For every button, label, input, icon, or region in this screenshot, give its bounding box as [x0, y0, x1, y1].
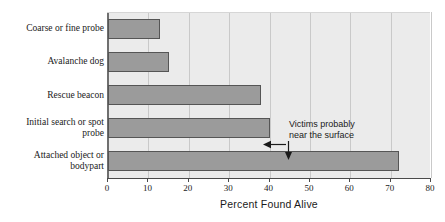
bar-row — [108, 145, 430, 178]
x-tick-mark — [349, 178, 350, 182]
category-label: Coarse or fine probe — [2, 23, 107, 34]
bar — [108, 19, 160, 39]
chart-figure: Coarse or fine probeAvalanche dogRescue … — [0, 0, 445, 222]
category-label-line: Initial search or spot — [2, 117, 104, 128]
x-tick-label: 50 — [294, 183, 324, 193]
x-tick-mark — [228, 178, 229, 182]
bar — [108, 151, 399, 171]
category-label: Avalanche dog — [2, 56, 107, 67]
bar — [108, 85, 261, 105]
bar-row — [108, 78, 430, 111]
category-label: Rescue beacon — [2, 90, 107, 101]
gridline-80 — [431, 12, 432, 178]
x-tick-label: 20 — [173, 183, 203, 193]
bar — [108, 118, 270, 138]
category-label: Initial search or spotprobe — [2, 117, 107, 139]
category-label-line: Coarse or fine probe — [2, 23, 104, 34]
category-label-line: Avalanche dog — [2, 56, 104, 67]
category-label-line: bodypart — [2, 161, 104, 172]
x-tick-mark — [188, 178, 189, 182]
annotation-line-1: Victims probably — [289, 119, 399, 130]
x-tick-label: 40 — [254, 183, 284, 193]
category-label-line: Attached object or — [2, 150, 104, 161]
category-axis-labels: Coarse or fine probeAvalanche dogRescue … — [0, 12, 107, 178]
annotation-label: Victims probably near the surface — [289, 119, 399, 140]
x-tick-label: 60 — [334, 183, 364, 193]
x-tick-label: 80 — [415, 183, 445, 193]
x-tick-mark — [269, 178, 270, 182]
x-tick-mark — [390, 178, 391, 182]
category-label-line: probe — [2, 128, 104, 139]
x-tick-mark — [430, 178, 431, 182]
x-axis-title: Percent Found Alive — [107, 198, 431, 210]
x-tick-mark — [147, 178, 148, 182]
x-tick-label: 70 — [375, 183, 405, 193]
plot-top-border — [107, 12, 430, 13]
x-tick-mark — [107, 178, 108, 182]
bar-row — [108, 12, 430, 45]
x-tick-label: 10 — [132, 183, 162, 193]
plot-area — [107, 12, 430, 178]
x-tick-label: 30 — [213, 183, 243, 193]
x-tick-mark — [309, 178, 310, 182]
bar-row — [108, 45, 430, 78]
x-tick-label: 0 — [92, 183, 122, 193]
category-label: Attached object orbodypart — [2, 150, 107, 172]
annotation-line-2: near the surface — [289, 130, 399, 141]
bar — [108, 52, 169, 72]
category-label-line: Rescue beacon — [2, 90, 104, 101]
annotation-arrow-down-icon — [284, 141, 293, 160]
